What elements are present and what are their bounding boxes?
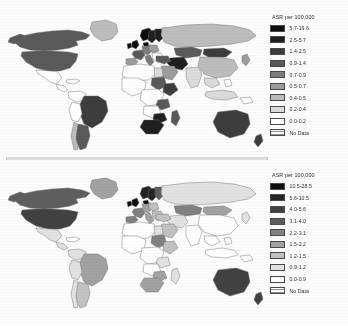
legend-swatch: [270, 60, 285, 67]
legend-swatch: [270, 252, 285, 259]
legend-label: No Data: [290, 288, 309, 294]
legend-item: 3.1-4.0: [270, 216, 346, 226]
country-greenland: [90, 178, 118, 199]
legend-label: No Data: [290, 130, 309, 136]
country-philippines: [224, 237, 232, 245]
legend-swatch: [270, 183, 285, 190]
country-india: [186, 67, 202, 88]
legend-item: 0.9-1.2: [270, 263, 346, 273]
figure-container: ASR per 100,000 5.7-19.6 2.5-5.7 1.4-2.5…: [0, 0, 348, 326]
legend-swatch: [270, 94, 285, 101]
country-egypt: [154, 68, 163, 78]
legend-item: 0.0-0.2: [270, 116, 346, 126]
country-southafrica: [140, 278, 164, 292]
legend-item-no-data: No Data: [270, 128, 346, 138]
country-uk: [132, 198, 139, 207]
legend-swatch: [270, 71, 285, 78]
country-japan: [242, 212, 250, 224]
legend-item: 2.2-3.1: [270, 228, 346, 238]
legend-swatch: [270, 83, 285, 90]
legend-swatch: [270, 264, 285, 271]
lower-map-panel: ASR per 100,000 10.5-28.5 5.6-10.5 4.0-5…: [0, 166, 348, 318]
legend-label: 0.9-1.4: [290, 60, 307, 66]
country-kazakhstan: [174, 47, 202, 58]
legend-item: 1.2-1.5: [270, 251, 346, 261]
country-newzealand: [254, 292, 263, 305]
country-brazil: [80, 254, 108, 286]
country-antarctica-edge: [6, 158, 268, 160]
legend-label: 3.1-4.0: [290, 218, 307, 224]
country-kenya-ethiopia: [163, 83, 178, 96]
upper-world-map-svg: [6, 8, 268, 160]
legend-title: ASR per 100,000: [272, 14, 346, 20]
legend-label: 1.2-1.5: [290, 253, 307, 259]
legend-label: 10.5-28.5: [290, 183, 312, 189]
legend-item: 2.5-5.7: [270, 35, 346, 45]
country-mongolia: [203, 206, 232, 216]
legend-swatch: [270, 25, 285, 32]
country-russia: [161, 182, 256, 205]
country-madagascar: [171, 268, 180, 284]
country-indonesia: [205, 90, 238, 100]
legend-label: 5.6-10.5: [290, 195, 309, 201]
country-seasia: [204, 78, 220, 88]
legend-label: 1.4-2.5: [290, 48, 307, 54]
legend-item: 0.4-0.5: [270, 93, 346, 103]
country-newzealand: [254, 134, 263, 147]
upper-map-panel: ASR per 100,000 5.7-19.6 2.5-5.7 1.4-2.5…: [0, 8, 348, 160]
legend-swatch: [270, 218, 285, 225]
country-png: [240, 255, 253, 262]
country-ireland: [127, 43, 132, 49]
country-india: [186, 225, 202, 246]
legend-label: 0.0-0.2: [290, 118, 307, 124]
country-greenland: [90, 20, 118, 41]
legend-label: 0.0-0.9: [290, 276, 307, 282]
country-china: [198, 215, 238, 236]
legend-item: 4.0-5.6: [270, 205, 346, 215]
country-canada: [14, 188, 90, 209]
country-usa: [21, 209, 78, 229]
legend-swatch: [270, 106, 285, 113]
upper-map-canvas: [6, 8, 268, 160]
country-ireland: [127, 201, 132, 207]
lower-map-canvas: [6, 166, 268, 318]
upper-map-legend: ASR per 100,000 5.7-19.6 2.5-5.7 1.4-2.5…: [270, 14, 346, 139]
country-peru-bolivia: [69, 102, 82, 122]
legend-label: 1.5-2.2: [290, 241, 307, 247]
lower-world-map-svg: [6, 166, 268, 318]
legend-label: 0.5-0.7: [290, 83, 307, 89]
legend-label: 2.2-3.1: [290, 230, 307, 236]
country-centralamerica: [56, 84, 68, 92]
country-usa: [21, 51, 78, 71]
legend-swatch-no-data: [270, 287, 285, 294]
legend-label: 4.0-5.6: [290, 206, 307, 212]
legend-label: 0.7-0.9: [290, 72, 307, 78]
legend-swatch: [270, 118, 285, 125]
country-canada: [14, 30, 90, 51]
legend-item: 0.0-0.9: [270, 274, 346, 284]
country-indonesia: [205, 248, 238, 258]
legend-swatch: [270, 36, 285, 43]
country-japan: [242, 54, 250, 66]
country-peru-bolivia: [69, 260, 82, 280]
country-seasia: [204, 236, 220, 246]
legend-item: 10.5-28.5: [270, 182, 346, 192]
legend-swatch: [270, 229, 285, 236]
lower-map-legend: ASR per 100,000 10.5-28.5 5.6-10.5 4.0-5…: [270, 172, 346, 297]
country-centralamerica: [56, 242, 68, 250]
legend-title: ASR per 100,000: [272, 172, 346, 178]
country-caribbean: [66, 237, 80, 242]
country-egypt: [154, 226, 163, 236]
country-mexico: [36, 70, 62, 84]
legend-label: 2.5-5.7: [290, 37, 307, 43]
country-mongolia: [203, 48, 232, 58]
country-philippines: [224, 79, 232, 87]
country-caribbean: [66, 79, 80, 84]
legend-label: 0.2-0.4: [290, 106, 307, 112]
country-kazakhstan: [174, 205, 202, 216]
country-mexico: [36, 228, 62, 242]
legend-item: 0.7-0.9: [270, 70, 346, 80]
legend-item: 0.2-0.4: [270, 105, 346, 115]
country-australia: [213, 110, 250, 138]
country-kenya-ethiopia: [163, 241, 178, 254]
